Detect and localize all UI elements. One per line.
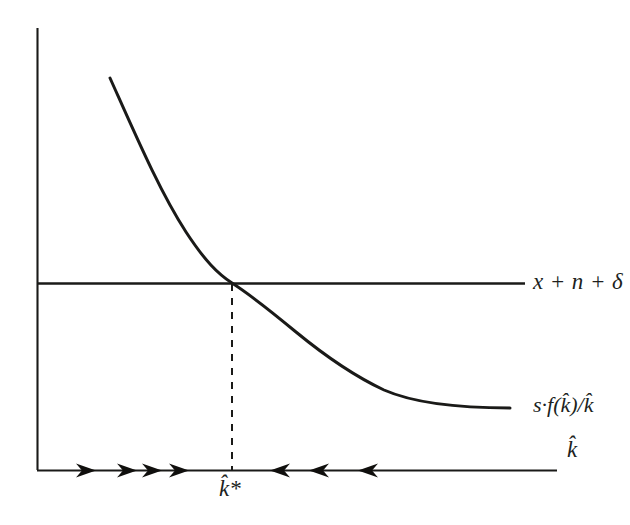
sf-k-over-k-curve (110, 78, 510, 408)
solow-diagram-figure: x + n + δ s·f(k̂)/k̂ k̂ k̂* (0, 0, 630, 525)
x-n-delta-label: x + n + δ (533, 270, 623, 293)
x-axis-label: k̂ (567, 438, 577, 461)
sf-k-over-k-label: s·f(k̂)/k̂ (533, 394, 593, 416)
plot-canvas (0, 0, 630, 525)
steady-state-label: k̂* (219, 477, 241, 500)
